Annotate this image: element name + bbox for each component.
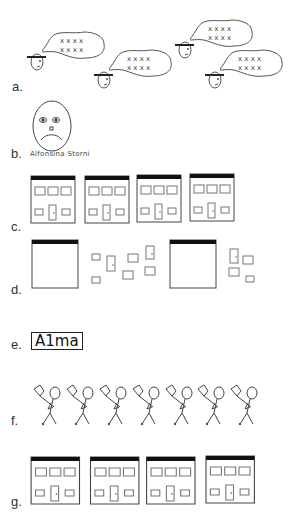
panel-label-b: b. <box>11 146 22 161</box>
panel-label-e: e. <box>11 337 22 352</box>
buildings-row-g <box>30 456 295 513</box>
portrait-caption: Alfonsina Storni <box>30 150 90 158</box>
panel-label-c: c. <box>11 219 21 234</box>
buildings-row-c <box>30 174 290 234</box>
thinking-heads-illustration: x x x x x x x x <box>0 0 295 100</box>
svg-text:x x x x: x x x x <box>60 37 83 45</box>
sad-face-portrait <box>28 100 88 155</box>
panel-label-d: d. <box>11 282 22 297</box>
deconstructed-buildings <box>30 240 290 300</box>
panel-label-g: g. <box>11 494 22 509</box>
stick-figures-row <box>32 383 295 433</box>
panel-label-a: a. <box>12 79 23 94</box>
boxed-word: A1ma <box>31 332 83 350</box>
svg-text:x x x x: x x x x <box>60 46 83 54</box>
panel-label-f: f. <box>11 413 18 428</box>
